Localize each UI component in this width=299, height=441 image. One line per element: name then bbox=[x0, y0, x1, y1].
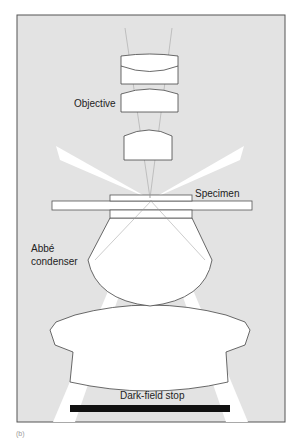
microscope-diagram bbox=[0, 0, 299, 441]
objective-lens-3 bbox=[124, 130, 172, 160]
objective-lens-2 bbox=[121, 89, 178, 112]
dark-field-stop bbox=[70, 405, 230, 412]
caption: (b) bbox=[16, 430, 25, 437]
coverslip bbox=[110, 195, 192, 201]
label-specimen: Specimen bbox=[195, 188, 239, 200]
label-condenser-2: condenser bbox=[31, 256, 78, 268]
label-condenser-1: Abbé bbox=[31, 243, 54, 255]
condenser-lower-lens bbox=[50, 305, 250, 391]
label-dark-field-stop: Dark-field stop bbox=[120, 390, 184, 402]
objective-lens-1 bbox=[121, 54, 178, 84]
label-objective: Objective bbox=[74, 98, 116, 110]
stage-top bbox=[110, 210, 192, 218]
